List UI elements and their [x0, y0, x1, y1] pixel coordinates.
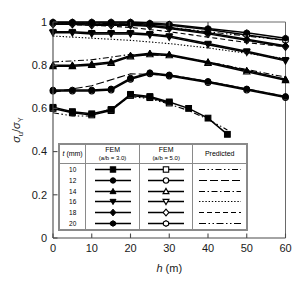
legend-header-fem-5: FEM (a/b = 5.0) — [139, 145, 193, 164]
legend-header-thickness-unit: (mm) — [66, 150, 82, 157]
x-tick-label: 50 — [241, 242, 253, 254]
legend-symbol-fem-3 — [86, 218, 140, 229]
legend-symbol-fem-5 — [139, 196, 193, 207]
legend-thickness-value: 14 — [60, 186, 86, 197]
legend-symbol-fem-3 — [86, 196, 140, 207]
legend-symbol-fem-5 — [139, 163, 193, 174]
chart-figure: 00.20.40.60.810102030405060σu/σYh (m) t … — [0, 0, 302, 287]
x-tick-label: 60 — [279, 242, 291, 254]
data-point-marker — [69, 87, 75, 93]
x-tick-label: 10 — [86, 242, 98, 254]
data-point-marker — [166, 72, 172, 78]
legend-symbol-fem-3 — [86, 186, 140, 197]
x-tick-label: 20 — [124, 242, 136, 254]
data-point-marker — [128, 75, 134, 81]
data-point-marker — [89, 111, 95, 117]
legend-symbol-fem-3 — [86, 175, 140, 186]
legend-body: 101214161820 — [60, 163, 247, 229]
legend-symbol-predicted — [193, 207, 247, 218]
x-axis-title: h (m) — [156, 262, 182, 274]
legend-thickness-value: 10 — [60, 163, 86, 174]
legend-header-fem-5-sub: (a/b = 5.0) — [152, 155, 180, 161]
data-point-marker — [244, 86, 250, 92]
data-point-marker — [205, 79, 211, 85]
legend-header-predicted-main: Predicted — [205, 150, 235, 157]
y-tick-label: 1 — [41, 16, 47, 28]
data-point-marker — [69, 109, 75, 115]
legend-header-thickness-symbol: t — [63, 150, 65, 157]
legend-header-fem-3: FEM (a/b = 3.0) — [86, 145, 140, 164]
legend-thickness-value: 16 — [60, 196, 86, 207]
y-tick-label: 0.8 — [32, 59, 47, 71]
legend-symbol-predicted — [193, 196, 247, 207]
data-point-marker — [166, 99, 172, 105]
legend-symbol-predicted — [193, 163, 247, 174]
legend-header-fem-5-main: FEM — [159, 146, 174, 153]
legend-symbol-predicted — [193, 218, 247, 229]
legend-table: t (mm) FEM (a/b = 3.0) FEM (a/b = 5.0) P… — [59, 144, 247, 230]
legend-header-predicted: Predicted — [193, 145, 247, 164]
x-tick-label: 40 — [202, 242, 214, 254]
legend-symbol-fem-5 — [139, 175, 193, 186]
legend-row: 14 — [60, 186, 247, 197]
legend-row: 18 — [60, 207, 247, 218]
legend-symbol-fem-5 — [139, 186, 193, 197]
x-tick-label: 30 — [163, 242, 175, 254]
legend-row: 20 — [60, 218, 247, 229]
y-tick-label: 0.4 — [32, 145, 47, 157]
legend-header-thickness: t (mm) — [60, 145, 86, 164]
legend-table-container: t (mm) FEM (a/b = 3.0) FEM (a/b = 5.0) P… — [58, 143, 248, 231]
legend-symbol-fem-3 — [86, 207, 140, 218]
legend-row: 16 — [60, 196, 247, 207]
y-tick-label: 0.6 — [32, 102, 47, 114]
data-point-marker — [224, 131, 230, 137]
legend-symbol-predicted — [193, 175, 247, 186]
data-point-marker — [147, 94, 153, 100]
legend-symbol-fem-5 — [139, 207, 193, 218]
series-line — [53, 94, 227, 134]
legend-header-row: t (mm) FEM (a/b = 3.0) FEM (a/b = 5.0) P… — [60, 145, 247, 164]
legend-symbol-fem-5 — [139, 218, 193, 229]
data-point-marker — [108, 107, 114, 113]
legend-thickness-value: 20 — [60, 218, 86, 229]
legend-row: 12 — [60, 175, 247, 186]
data-series-group — [50, 19, 289, 137]
y-tick-label: 0.2 — [32, 189, 47, 201]
data-point-marker — [186, 106, 192, 112]
x-tick-label: 0 — [50, 242, 56, 254]
y-tick-label: 0 — [41, 232, 47, 244]
data-point-marker — [108, 86, 114, 92]
data-point-marker — [283, 94, 289, 100]
data-point-marker — [283, 35, 289, 41]
legend-symbol-fem-3 — [86, 163, 140, 174]
data-point-marker — [147, 70, 153, 76]
data-point-marker — [89, 87, 95, 93]
legend-symbol-predicted — [193, 186, 247, 197]
data-point-marker — [205, 115, 211, 121]
data-point-marker — [128, 91, 134, 97]
legend-header-fem-3-main: FEM — [105, 146, 120, 153]
y-axis-title: σu/σY — [10, 117, 25, 143]
legend-thickness-value: 18 — [60, 207, 86, 218]
legend-header-fem-3-sub: (a/b = 3.0) — [99, 155, 127, 161]
legend-thickness-value: 12 — [60, 175, 86, 186]
legend-row: 10 — [60, 163, 247, 174]
